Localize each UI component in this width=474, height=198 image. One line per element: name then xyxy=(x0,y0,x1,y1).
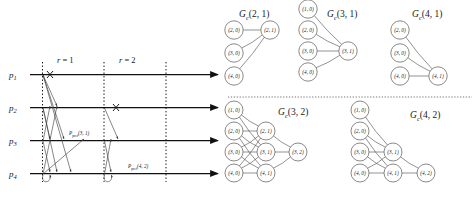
round-label-r2: r = 2 xyxy=(119,55,136,65)
causal-graph-gc31: Gc(3, 1)(1, 0)(2, 0)(3, 0)(4, 0)(3, 1) xyxy=(299,0,358,81)
causal-graph-gc21: Gc(2, 1)(2, 0)(3, 0)(4, 0)(2, 1) xyxy=(225,9,279,85)
graph-node[interactable]: (4, 0) xyxy=(351,164,369,182)
graph-node[interactable]: (1, 0) xyxy=(299,0,317,18)
graph-edge xyxy=(368,157,386,168)
graph-node[interactable]: (2, 0) xyxy=(225,21,243,39)
graph-edge xyxy=(274,136,291,147)
graph-node-label: (2, 0) xyxy=(302,27,314,34)
graph-node-label: (4, 1) xyxy=(387,170,399,177)
graph-edge xyxy=(406,37,432,69)
causal-graph-gc42: Gc(4, 2)(1, 0)(2, 0)(3, 0)(4, 0)(3, 1)(4… xyxy=(351,101,440,182)
graph-node[interactable]: (3, 1) xyxy=(257,143,275,161)
graph-node[interactable]: (3, 0) xyxy=(391,44,409,62)
graph-node[interactable]: (2, 1) xyxy=(257,122,275,140)
figure-root: p1 p2 p3 p4 r = 1 r = 2 xyxy=(0,0,474,198)
graph-node[interactable]: (4, 1) xyxy=(384,164,402,182)
graph-node-label: (4, 1) xyxy=(432,73,444,80)
graph-node[interactable]: (4, 1) xyxy=(429,67,447,85)
graph-node-label: (4, 0) xyxy=(228,170,240,177)
graph-node-label: (4, 0) xyxy=(394,73,406,80)
causal-graph-gc41: Gc(4, 1)(2, 0)(3, 0)(4, 0)(4, 1) xyxy=(391,9,447,85)
graph-edge xyxy=(242,157,259,168)
self-message-p4-r1 xyxy=(43,175,51,182)
round-label-r1: r = 1 xyxy=(57,55,74,65)
graph-edge xyxy=(368,157,386,168)
graph-node[interactable]: (2, 0) xyxy=(225,122,243,140)
messages-round-1 xyxy=(43,75,84,182)
graph-edge xyxy=(316,55,340,67)
graph-edge xyxy=(242,35,262,48)
graph-node[interactable]: (1, 0) xyxy=(225,101,243,119)
graph-node[interactable]: (3, 0) xyxy=(225,143,243,161)
messages-round-2 xyxy=(104,108,118,182)
graph-edges-gc21 xyxy=(240,30,265,69)
graph-node-label: (2, 1) xyxy=(264,27,276,34)
graph-title-gc31: Gc(3, 1) xyxy=(327,9,357,21)
graph-node-label: (2, 0) xyxy=(228,128,240,135)
graph-node[interactable]: (4, 1) xyxy=(257,164,275,182)
graph-node[interactable]: (1, 0) xyxy=(351,101,369,119)
spacetime-diagram: p1 p2 p3 p4 r = 1 r = 2 xyxy=(8,55,218,182)
graph-edges-gc41 xyxy=(406,37,432,76)
graph-node-label: (3, 0) xyxy=(302,48,314,55)
graph-node[interactable]: (4, 0) xyxy=(299,63,317,81)
graph-node[interactable]: (2, 0) xyxy=(391,21,409,39)
graph-node-label: (3, 0) xyxy=(228,50,240,57)
graph-node-label: (3, 1) xyxy=(387,149,399,156)
graph-edge xyxy=(401,157,419,168)
graph-title-gc21: Gc(2, 1) xyxy=(239,9,269,21)
process-label-p3: p3 xyxy=(8,136,18,147)
graph-node-label: (3, 2) xyxy=(292,149,304,156)
graph-title-gc32: Gc(3, 2) xyxy=(278,107,308,119)
graph-node-label: (1, 0) xyxy=(228,107,240,114)
graph-node[interactable]: (4, 0) xyxy=(225,67,243,85)
graph-node-label: (4, 1) xyxy=(260,170,272,177)
graph-node[interactable]: (3, 0) xyxy=(299,42,317,60)
process-label-p1: p1 xyxy=(8,70,17,81)
process-label-p2: p2 xyxy=(8,103,18,114)
graph-node[interactable]: (3, 2) xyxy=(289,143,307,161)
graph-edge xyxy=(314,16,341,45)
crash-marks xyxy=(47,71,119,111)
self-message-p4-r2 xyxy=(104,175,112,182)
message-labels: Ppref(3, 1) Ppref(4, 2) xyxy=(68,130,148,171)
causal-graphs-layer: Gc(2, 1)(2, 0)(3, 0)(4, 0)(2, 1)Gc(3, 1)… xyxy=(225,0,447,182)
graph-node-label: (3, 0) xyxy=(394,50,406,57)
graph-node-label: (4, 2) xyxy=(420,170,432,177)
graph-node[interactable]: (2, 1) xyxy=(261,21,279,39)
graph-edge xyxy=(242,157,259,168)
graph-node[interactable]: (4, 0) xyxy=(225,164,243,182)
message-p1-to-p4 xyxy=(43,75,71,172)
graph-title-gc41: Gc(4, 1) xyxy=(412,9,442,21)
graph-node[interactable]: (4, 2) xyxy=(417,164,435,182)
graph-node-label: (4, 0) xyxy=(354,170,366,177)
message-label-pref31: Ppref(3, 1) xyxy=(68,130,89,138)
graph-node-label: (4, 0) xyxy=(302,69,314,76)
graph-node[interactable]: (3, 0) xyxy=(351,143,369,161)
graph-title-gc42: Gc(4, 2) xyxy=(410,110,440,122)
graph-node[interactable]: (3, 0) xyxy=(225,44,243,62)
causal-graph-gc32: Gc(3, 2)(1, 0)(2, 0)(3, 0)(4, 0)(2, 1)(3… xyxy=(225,101,308,182)
figure-canvas: p1 p2 p3 p4 r = 1 r = 2 xyxy=(0,0,474,198)
graph-node-label: (2, 0) xyxy=(354,128,366,135)
graph-node-label: (4, 0) xyxy=(228,73,240,80)
graph-node-label: (1, 0) xyxy=(354,107,366,114)
graph-node-label: (2, 1) xyxy=(260,128,272,135)
graph-node[interactable]: (2, 0) xyxy=(351,122,369,140)
graph-edges-gc31 xyxy=(314,16,341,68)
process-label-p4: p4 xyxy=(8,169,18,180)
graph-node-label: (2, 0) xyxy=(394,27,406,34)
graph-edge xyxy=(408,58,430,71)
graph-node[interactable]: (2, 0) xyxy=(299,21,317,39)
graph-node-label: (2, 0) xyxy=(228,27,240,34)
graph-node[interactable]: (3, 1) xyxy=(339,42,357,60)
graph-edge xyxy=(274,157,291,168)
process-timelines xyxy=(30,75,218,174)
graph-edge xyxy=(316,34,340,46)
round-labels: r = 1 r = 2 xyxy=(57,55,136,65)
process-labels: p1 p2 p3 p4 xyxy=(8,70,18,180)
graph-node-label: (1, 0) xyxy=(302,6,314,13)
graph-node-label: (3, 0) xyxy=(228,149,240,156)
graph-node[interactable]: (4, 0) xyxy=(391,67,409,85)
graph-node[interactable]: (3, 1) xyxy=(384,143,402,161)
